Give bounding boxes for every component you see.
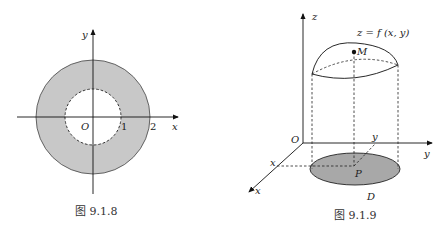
caption-9-1-9: 图 9.1.9 [334,209,377,222]
z-axis-label: z [311,11,318,22]
point-p-label: P [354,168,362,179]
surface-label: z = f (x, y) [356,27,409,38]
origin-label: O [81,121,89,132]
proj-x-label: x [270,157,276,168]
point-m [352,50,356,54]
tick-2-label: 2 [150,121,156,132]
x-axis-label: x [172,121,178,132]
region-d-label: D [366,191,375,202]
caption-9-1-8: 图 9.1.8 [75,205,118,218]
figure-annulus: x y O 1 2 图 9.1.8 [17,29,178,218]
tick-1-label: 1 [121,121,127,132]
origin-3d-label: O [291,134,299,145]
figures-canvas: x y O 1 2 图 9.1.8 z y x O z = f (x, y) M… [0,0,448,231]
y-axis-label: y [81,29,88,40]
proj-y-label: y [371,131,378,142]
figure-surface: z y x O z = f (x, y) M P D x y 图 9.1.9 [249,11,432,222]
y-axis-3d-label: y [423,148,430,159]
x-axis-3d-label: x [255,185,261,196]
point-m-label: M [356,46,368,57]
